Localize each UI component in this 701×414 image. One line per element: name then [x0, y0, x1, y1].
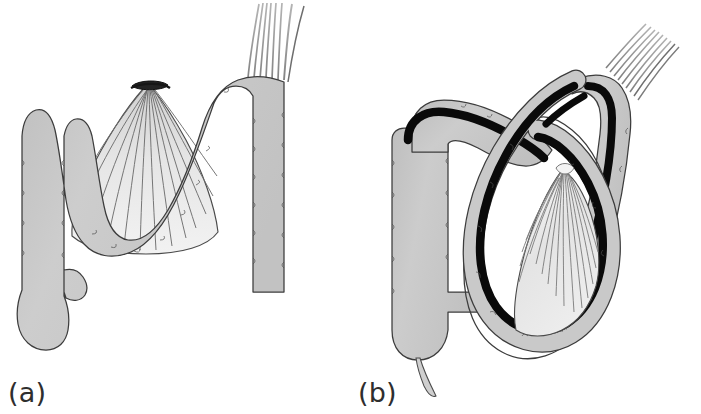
panel-a-illustration — [0, 0, 350, 414]
panel-b: (b) — [350, 0, 701, 414]
panel-b-illustration — [350, 0, 701, 414]
vessel-bundle — [248, 3, 304, 82]
panel-b-label: (b) — [358, 379, 397, 406]
panel-a-label: (a) — [8, 379, 46, 406]
panel-a: (a) — [0, 0, 350, 414]
figure-container: (a) — [0, 0, 701, 414]
appendix — [416, 358, 436, 397]
mesenteric-pedicle — [556, 164, 574, 175]
mesenteric-root — [131, 81, 170, 90]
